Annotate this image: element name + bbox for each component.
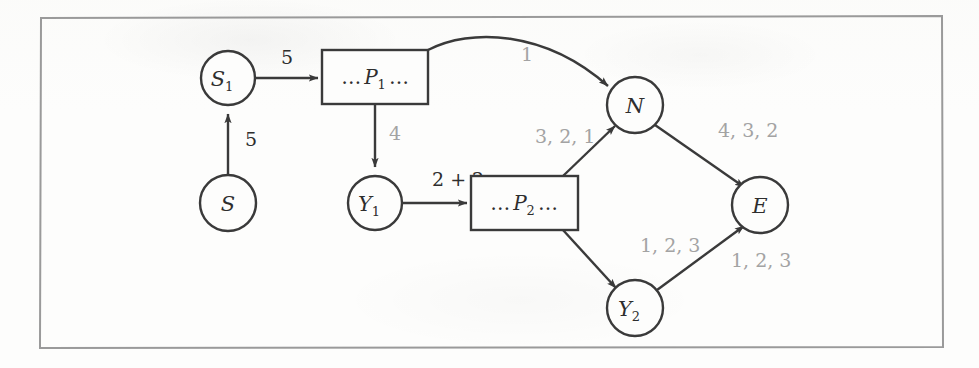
edge-label-S-to-S1: 5 xyxy=(245,128,257,150)
box-label-P1: …P1… xyxy=(341,65,409,92)
edge-S1-to-P1: 5 xyxy=(256,46,318,78)
node-circle xyxy=(607,280,663,336)
box-label-P2: …P2… xyxy=(490,191,558,218)
edge-P1-to-N: 1 xyxy=(428,37,608,86)
node-name-S1: S xyxy=(211,67,225,91)
edge-P1-to-Y1: 4 xyxy=(375,104,401,167)
edge-line xyxy=(563,230,616,288)
edge-label-P2-to-N: 3, 2, 1 xyxy=(535,125,595,147)
box-name-P1: P xyxy=(363,65,378,89)
node-label-N: N xyxy=(625,94,645,118)
edge-label-S1-to-P1: 5 xyxy=(281,46,293,68)
node-label-S: S xyxy=(221,192,235,216)
box-suffix-P1: … xyxy=(389,65,409,89)
box-prefix-P1: … xyxy=(341,65,361,89)
node-N[interactable]: N xyxy=(607,77,663,133)
node-S[interactable]: S xyxy=(200,175,256,231)
edge-label-P2-to-Y2: 1, 2, 3 xyxy=(640,234,700,256)
box-prefix-P2: … xyxy=(490,191,510,215)
edge-P2-to-N: 3, 2, 1 xyxy=(535,125,615,176)
box-name-P2: P xyxy=(512,191,527,215)
box-sub-P1: 1 xyxy=(378,77,386,92)
node-S1[interactable]: S1 xyxy=(201,51,255,105)
figure-page: 5 5 1 4 2 + 2 3, 2, 1 4, 3 xyxy=(0,0,979,368)
process-box-P2[interactable]: …P2… xyxy=(471,176,578,230)
edge-label-N-to-E: 4, 3, 2 xyxy=(718,119,778,141)
node-label-E: E xyxy=(751,194,767,218)
edge-label-P1-to-N: 1 xyxy=(521,43,533,65)
node-sub-Y2: 2 xyxy=(632,309,640,324)
node-Y1[interactable]: Y1 xyxy=(348,176,402,230)
edge-S-to-S1: 5 xyxy=(228,114,257,175)
process-box-P1[interactable]: …P1… xyxy=(322,50,428,104)
graph-diagram: 5 5 1 4 2 + 2 3, 2, 1 4, 3 xyxy=(0,0,979,368)
node-circle xyxy=(201,51,255,105)
edge-label-P1-to-Y1: 4 xyxy=(389,122,401,144)
box-sub-P2: 2 xyxy=(527,203,535,218)
edge-label-Y2-to-E: 1, 2, 3 xyxy=(731,249,791,271)
edge-curve xyxy=(428,37,608,86)
node-circle xyxy=(348,176,402,230)
box-suffix-P2: … xyxy=(538,191,558,215)
node-sub-S1: 1 xyxy=(225,79,233,94)
node-E[interactable]: E xyxy=(732,177,788,233)
node-Y2[interactable]: Y2 xyxy=(607,280,663,336)
node-sub-Y1: 1 xyxy=(372,204,380,219)
